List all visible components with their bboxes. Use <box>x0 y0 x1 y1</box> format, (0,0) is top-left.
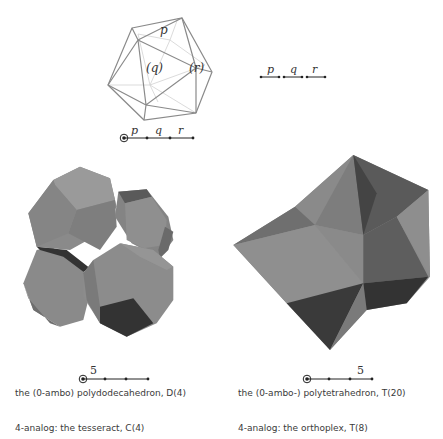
left-figure-analog: 4-analog: the tesseract, C(4) <box>15 423 144 433</box>
vertex-label-p: p <box>160 23 168 37</box>
polytetrahedron-render <box>220 110 443 370</box>
icosahedron-wireframe: p (q) (r) <box>100 10 220 125</box>
branch-label-q: q <box>155 124 162 137</box>
branch-label-r: r <box>312 63 318 76</box>
face-label-q: (q) <box>146 61 163 75</box>
coxeter-diagram-right: 5 <box>302 362 378 384</box>
branch-label-5: 5 <box>357 364 364 377</box>
branch-label-5: 5 <box>90 364 97 377</box>
edge-label-r: (r) <box>189 61 204 75</box>
left-figure-caption: the (0-ambo) polydodecahedron, D(4) <box>15 388 186 398</box>
right-figure-analog: 4-analog: the orthoplex, T(8) <box>238 423 368 433</box>
coxeter-diagram-plain: p q r <box>258 62 330 86</box>
branch-label-p: p <box>267 63 274 76</box>
polydodecahedron-render <box>0 150 220 370</box>
coxeter-diagram-left: 5 <box>78 362 154 384</box>
branch-label-p: p <box>131 124 138 137</box>
right-figure-caption: the (0-ambo-) polytetrahedron, T(20) <box>238 388 406 398</box>
branch-label-q: q <box>290 63 297 76</box>
coxeter-diagram-ringed: p q r <box>118 120 198 144</box>
branch-label-r: r <box>178 124 184 137</box>
